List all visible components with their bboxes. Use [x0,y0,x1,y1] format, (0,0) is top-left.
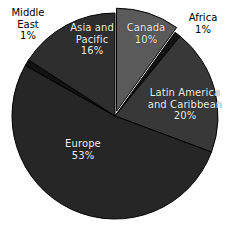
pie-label-canada: Canada 10% [118,22,174,45]
pie-chart-figure: Asia and Pacific 16% Canada 10% Latin Am… [0,0,232,237]
pie-label-africa: Africa 1% [176,12,230,35]
pie-label-asia-and-pacific: Asia and Pacific 16% [60,22,124,57]
pie-label-latin-america-and-caribbean: Latin America and Caribbean 20% [143,87,227,122]
pie-label-europe: Europe 53% [44,138,122,161]
pie-label-middle-east: Middle East 1% [0,7,56,42]
